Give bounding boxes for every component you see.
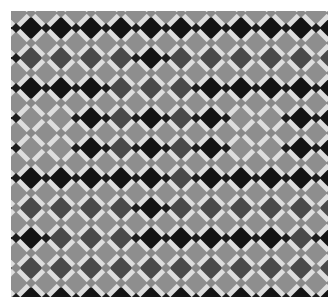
- tile-pattern: [11, 11, 328, 297]
- mosaic-image: [11, 11, 328, 297]
